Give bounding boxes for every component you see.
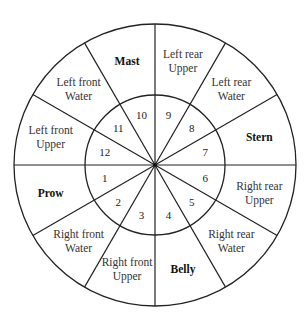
segment-label: Right frontUpper	[102, 256, 154, 283]
segment-label: Left rearWater	[211, 76, 251, 102]
segment-label-line: Upper	[113, 270, 142, 283]
segment-wheel-diagram: 1Prow2Right frontWater3Right frontUpper4…	[0, 0, 307, 321]
segment-number: 12	[99, 146, 110, 158]
center-hub	[153, 163, 157, 167]
segment-label: Right rearWater	[208, 228, 254, 254]
segment-label-line: Water	[218, 242, 245, 254]
segment-label: Right rearUpper	[236, 180, 282, 207]
segment-number: 4	[166, 209, 172, 221]
segment-number: 6	[202, 172, 208, 184]
segment-label: Left frontWater	[56, 76, 101, 102]
segment-number: 10	[136, 109, 148, 121]
segment-label-line: Right rear	[208, 228, 254, 241]
segment-number: 1	[102, 172, 108, 184]
segment-number: 7	[202, 146, 208, 158]
segment-label: Left frontUpper	[28, 124, 73, 151]
spoke-line	[155, 95, 277, 166]
segment-number: 9	[166, 109, 172, 121]
segment-label-line: Belly	[170, 263, 195, 276]
segment-label: Mast	[115, 55, 140, 67]
segment-label-line: Left front	[28, 124, 73, 136]
segment-label-line: Left front	[56, 76, 101, 88]
segment-label-line: Stern	[246, 131, 273, 143]
segment-label: Left rearUpper	[163, 48, 203, 75]
segment-label-line: Mast	[115, 55, 140, 67]
segment-label-line: Upper	[36, 138, 65, 151]
segment-label-line: Left rear	[211, 76, 251, 88]
segment-number: 8	[189, 122, 195, 134]
segment-label-line: Water	[218, 90, 245, 102]
segment-label-line: Water	[65, 90, 92, 102]
segment-label-line: Upper	[169, 62, 198, 75]
segment-label-line: Right front	[53, 228, 105, 241]
segment-number: 3	[139, 209, 145, 221]
segment-number: 5	[189, 196, 195, 208]
segment-label: Prow	[38, 187, 65, 199]
segment-number: 11	[113, 122, 124, 134]
segment-label-line: Left rear	[163, 48, 203, 60]
segment-label-line: Upper	[245, 194, 274, 207]
segment-label-line: Right rear	[236, 180, 282, 193]
spoke-line	[85, 165, 156, 287]
segment-label: Right frontWater	[53, 228, 105, 254]
spoke-line	[33, 165, 155, 236]
segment-label-line: Right front	[102, 256, 154, 269]
segment-label-line: Water	[65, 242, 92, 254]
segment-label-line: Prow	[38, 187, 65, 199]
segment-label: Stern	[246, 131, 273, 143]
segment-number: 2	[115, 196, 121, 208]
segment-label: Belly	[170, 263, 195, 276]
